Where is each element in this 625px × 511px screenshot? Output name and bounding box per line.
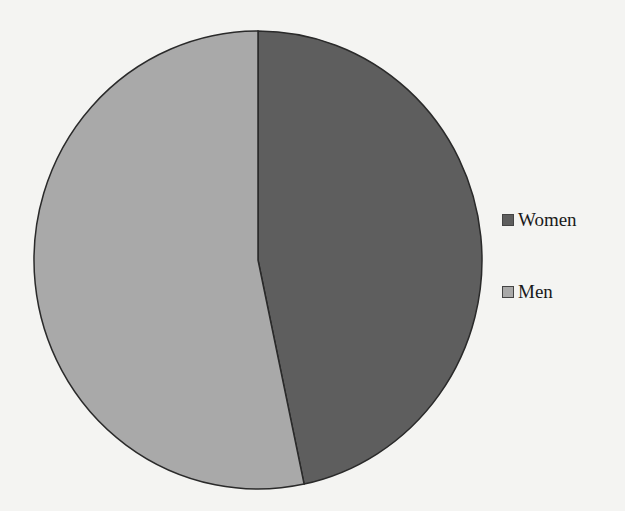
- chart-legend: Women Men: [502, 208, 577, 352]
- pie-slice-women: [258, 31, 482, 484]
- legend-label-women: Women: [518, 209, 577, 231]
- legend-item-women: Women: [502, 208, 577, 232]
- legend-label-men: Men: [518, 281, 553, 303]
- legend-swatch-women: [502, 214, 514, 226]
- legend-swatch-men: [502, 286, 514, 298]
- legend-item-men: Men: [502, 280, 577, 304]
